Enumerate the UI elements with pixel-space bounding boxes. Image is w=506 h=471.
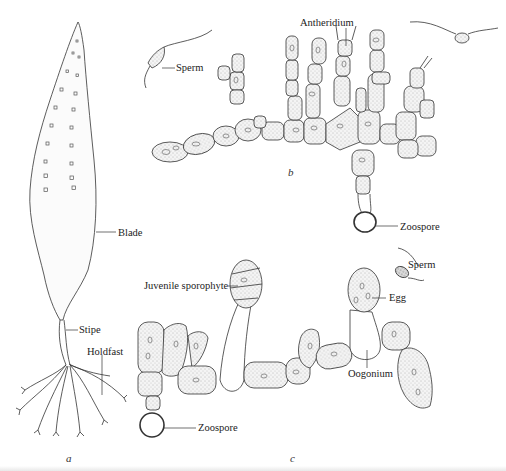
stipe-shape: [59, 320, 70, 365]
blade-shape: [30, 22, 96, 320]
page-edge-shadow: [0, 466, 506, 471]
label-holdfast: Holdfast: [87, 346, 123, 358]
label-antheridium: Antheridium: [300, 17, 354, 29]
label-sperm-female: Sperm: [408, 259, 435, 271]
label-zoospore-male: Zoospore: [400, 221, 440, 233]
holdfast-shape: [16, 364, 127, 437]
male-gametophyte-drawing: [152, 26, 436, 232]
kelp-life-cycle-illustration: [0, 0, 506, 471]
sporophyte-drawing: [16, 22, 127, 437]
label-egg: Egg: [389, 292, 406, 304]
panel-label-a: a: [66, 452, 72, 464]
label-oogonium: Oogonium: [348, 368, 393, 380]
label-stipe: Stipe: [79, 324, 101, 336]
label-blade: Blade: [118, 227, 143, 239]
label-juvenile-sporophyte: Juvenile sporophyte: [144, 280, 228, 292]
panel-label-c: c: [290, 452, 295, 464]
label-sperm-male: Sperm: [176, 62, 203, 74]
label-zoospore-female: Zoospore: [198, 422, 238, 434]
panel-label-b: b: [288, 166, 294, 178]
